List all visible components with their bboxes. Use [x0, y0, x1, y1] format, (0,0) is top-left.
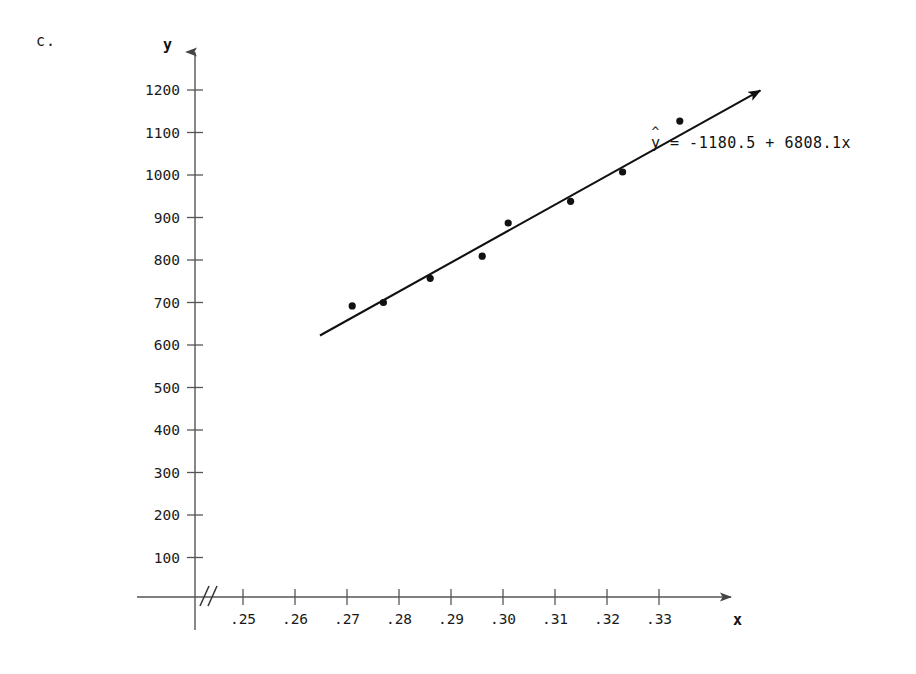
scatter-point — [479, 253, 486, 260]
regression-fit-line — [320, 90, 760, 335]
scatter-point — [380, 299, 387, 306]
x-axis-break-icon — [200, 586, 217, 606]
y-tick-label: 1100 — [110, 125, 180, 141]
y-tick-label: 100 — [110, 550, 180, 566]
scatter-point — [567, 198, 574, 205]
y-tick-label: 300 — [110, 465, 180, 481]
x-tick-label: .28 — [386, 611, 412, 627]
x-tick-label: .33 — [646, 611, 672, 627]
scatter-point — [427, 275, 434, 282]
x-tick-label: .25 — [230, 611, 256, 627]
scatter-points-group — [349, 117, 684, 309]
x-tick-label: .32 — [594, 611, 620, 627]
y-tick-label: 400 — [110, 422, 180, 438]
x-tick-label: .27 — [334, 611, 360, 627]
scatter-point — [349, 302, 356, 309]
y-tick-label: 800 — [110, 252, 180, 268]
scatter-point — [505, 219, 512, 226]
y-tick-label: 900 — [110, 210, 180, 226]
y-tick-label: 1200 — [110, 82, 180, 98]
y-tick-label: 200 — [110, 507, 180, 523]
x-tick-label: .30 — [490, 611, 516, 627]
x-tick-label: .31 — [542, 611, 568, 627]
y-tick-label: 600 — [110, 337, 180, 353]
scatter-point — [619, 168, 626, 175]
x-tick-label: .26 — [282, 611, 308, 627]
x-tick-label: .29 — [438, 611, 464, 627]
y-tick-label: 700 — [110, 295, 180, 311]
scatter-point — [676, 117, 683, 124]
y-tick-label: 500 — [110, 380, 180, 396]
y-tick-label: 1000 — [110, 167, 180, 183]
figure-container: c. y x ^y = -1180.5 + 6808.1x — [0, 0, 916, 674]
